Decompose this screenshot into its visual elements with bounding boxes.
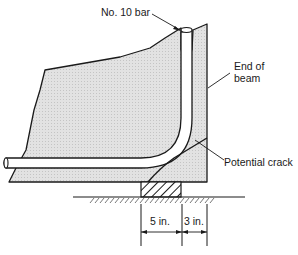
bar-end-cap (181, 28, 192, 33)
bar-label: No. 10 bar (101, 7, 150, 18)
dim-line-3in (182, 230, 207, 234)
potential-crack-label: Potential crack (224, 157, 293, 168)
dim-3in-label: 3 in. (184, 216, 204, 227)
beam-end-detail-diagram (0, 0, 298, 255)
dim-line-5in (141, 230, 182, 234)
end-of-beam-label-line2: beam (234, 73, 260, 84)
bar-left-end-cap (4, 158, 8, 168)
dim-5in-label: 5 in. (150, 216, 170, 227)
end-of-beam-label-line1: End of (234, 61, 264, 72)
ground-hatch (90, 198, 214, 203)
leader-end-of-beam (208, 73, 230, 88)
bearing-pad (141, 182, 181, 197)
